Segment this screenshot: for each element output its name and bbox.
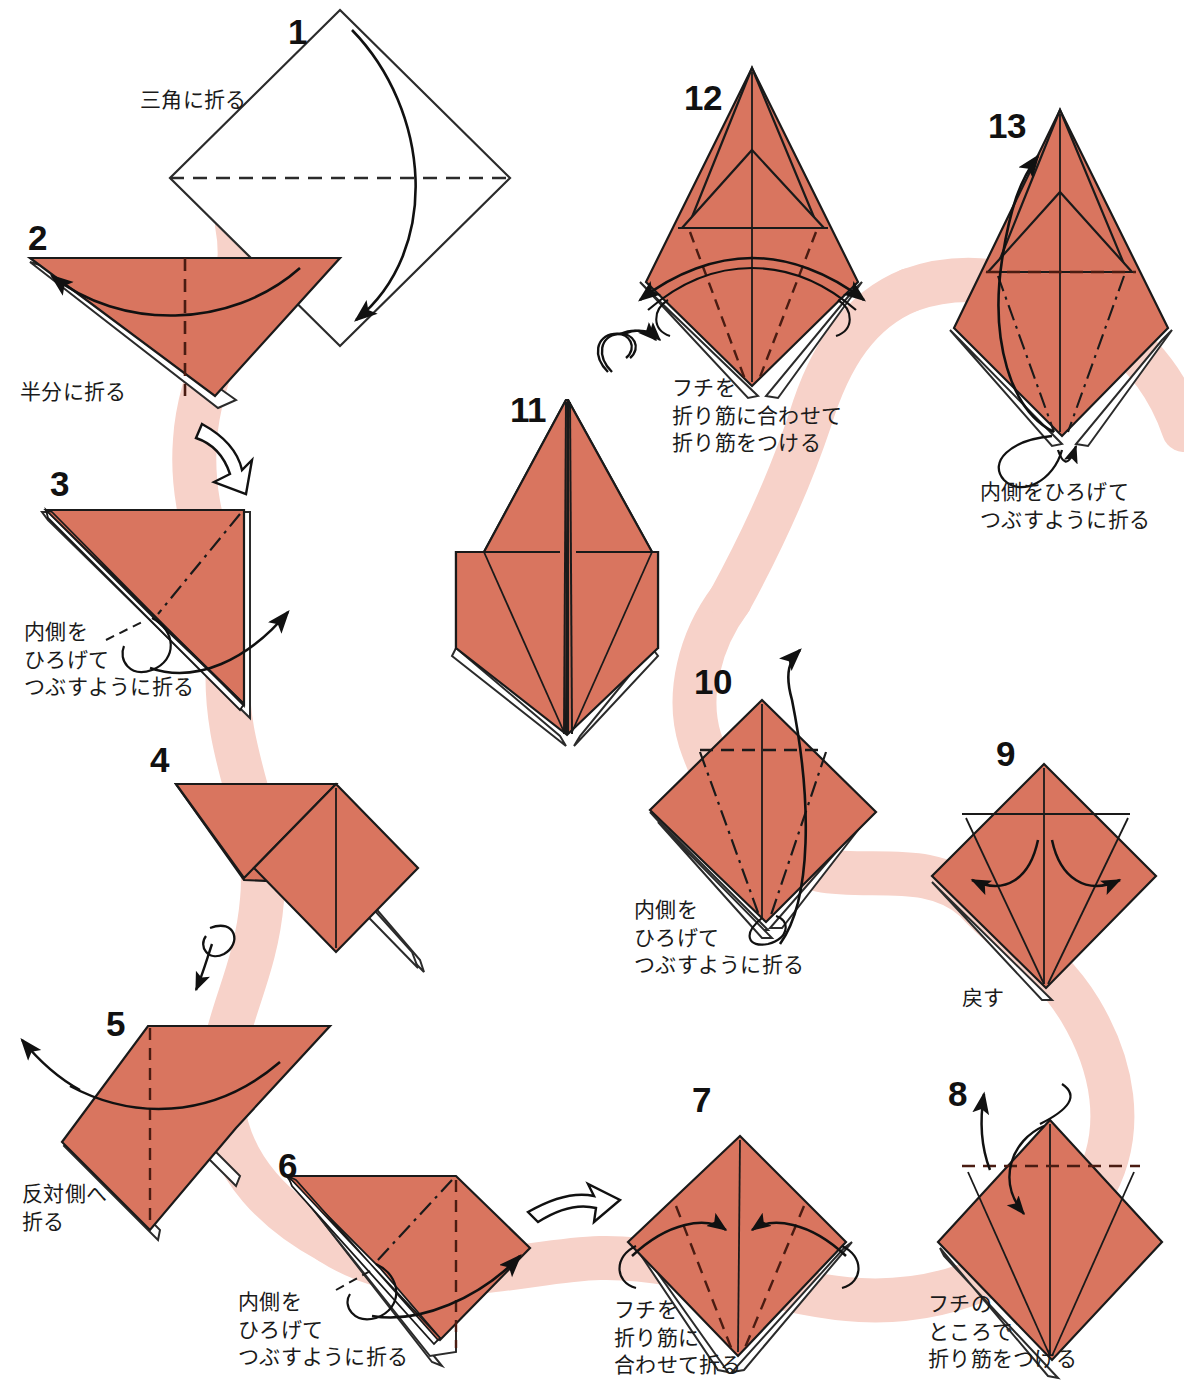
caption-step-10: 内側を ひろげて つぶすように折る [634,896,804,979]
caption-step-8: フチの ところで 折り筋をつける [928,1290,1077,1373]
turn-over-loop [203,926,234,956]
caption-step-5: 反対側へ 折る [22,1180,107,1235]
caption-step-13: 内側をひろげて つぶすように折る [980,478,1150,533]
step-number-7: 7 [692,1082,711,1117]
caption-step-6: 内側を ひろげて つぶすように折る [238,1288,408,1371]
origami-instruction-sheet: 1 2 3 4 5 6 7 8 9 10 11 12 13 三角に折る 半分に折… [0,0,1184,1390]
loop-top [1040,1084,1071,1124]
paper-left-body [456,400,568,734]
step-number-1: 1 [288,14,307,49]
caption-step-2: 半分に折る [20,378,127,406]
step-number-3: 3 [50,466,69,501]
caption-step-3: 内側を ひろげて つぶすように折る [24,618,194,701]
step-4-figure [176,784,424,990]
step-13-figure [950,110,1172,487]
step-9-figure [932,764,1156,1000]
hollow-progress-arrow-6to7 [528,1184,620,1222]
caption-step-12: フチを 折り筋に合わせて 折り筋をつける [672,374,842,457]
caption-step-7: フチを 折り筋に 合わせて折る [614,1296,742,1379]
step-11-figure [452,400,658,746]
step-number-2: 2 [28,220,47,255]
step-number-5: 5 [106,1006,125,1041]
unfold-arrow [982,1094,990,1170]
caption-step-1: 三角に折る [140,86,247,114]
step-number-8: 8 [948,1076,967,1111]
step-number-6: 6 [278,1148,297,1183]
step-number-10: 10 [694,664,732,699]
step-number-4: 4 [150,742,169,777]
step-number-11: 11 [510,392,546,427]
caption-step-9: 戻す [962,984,1005,1012]
step-number-9: 9 [996,736,1015,771]
fold-arrow [22,1040,80,1090]
step-number-12: 12 [684,80,722,115]
step-number-13: 13 [988,108,1026,143]
